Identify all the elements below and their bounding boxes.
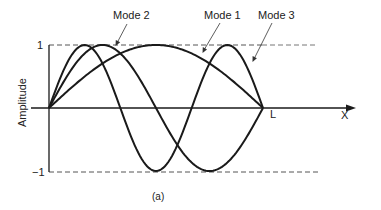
mode-shapes-diagram: Mode 2 Mode 1 Mode 3 1 −1 Amplitude L X … (0, 0, 381, 210)
mode-1-label: Mode 1 (204, 9, 241, 21)
mode-2-leader-line (117, 24, 127, 43)
mode-3-label: Mode 3 (258, 9, 295, 21)
x-axis-label: X (341, 109, 349, 121)
y-tick-top-label: 1 (37, 39, 43, 51)
mode-1-leader-arrowhead (203, 47, 208, 53)
mode-3-leader-line (254, 23, 272, 59)
y-tick-bottom-label: −1 (32, 166, 45, 178)
figure-caption: (a) (152, 191, 164, 202)
y-axis-label: Amplitude (16, 78, 28, 127)
x-end-label-L: L (270, 108, 276, 120)
mode-1-curve (49, 45, 263, 108)
mode-1-leader-line (204, 23, 220, 50)
mode-2-label: Mode 2 (113, 9, 150, 21)
